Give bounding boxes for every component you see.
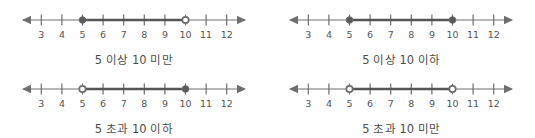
axis-tick-label: 9 bbox=[429, 98, 435, 109]
panel-caption: 5 이상 10 이하 bbox=[362, 53, 440, 68]
axis-tick-label: 11 bbox=[467, 29, 479, 40]
axis-tick-label: 10 bbox=[179, 98, 191, 109]
axis-tick-label: 4 bbox=[59, 98, 65, 109]
axis-tick-label: 4 bbox=[59, 29, 65, 40]
axis-tick-label: 7 bbox=[120, 29, 126, 40]
axis-tick-label: 12 bbox=[488, 98, 500, 109]
right-arrow-icon bbox=[504, 16, 513, 24]
endpoint-marker-open-start bbox=[79, 85, 85, 91]
endpoint-marker-filled-end bbox=[182, 85, 189, 92]
number-line-panel-4: 34567891011125 초과 10 미만 bbox=[268, 69, 535, 138]
axis-tick-label: 6 bbox=[367, 29, 373, 40]
axis-tick-label: 12 bbox=[220, 98, 232, 109]
number-line-diagram-grid: 34567891011125 이상 10 미만34567891011125 이상… bbox=[0, 0, 535, 137]
axis-tick-label: 10 bbox=[447, 29, 459, 40]
panel-caption: 5 초과 10 이하 bbox=[95, 122, 173, 137]
number-line-axis: 3456789101112 bbox=[9, 6, 259, 52]
number-line-axis: 3456789101112 bbox=[276, 6, 526, 52]
right-arrow-icon bbox=[237, 84, 246, 92]
axis-tick-label: 3 bbox=[306, 29, 312, 40]
left-arrow-icon bbox=[22, 84, 31, 92]
endpoint-marker-filled-start bbox=[79, 17, 86, 24]
axis-tick-label: 12 bbox=[488, 29, 500, 40]
axis-tick-label: 8 bbox=[141, 29, 147, 40]
number-line-panel-3: 34567891011125 초과 10 이하 bbox=[0, 69, 268, 138]
axis-tick-label: 8 bbox=[409, 98, 415, 109]
axis-tick-label: 3 bbox=[306, 98, 312, 109]
axis-tick-label: 5 bbox=[347, 29, 353, 40]
axis-tick-label: 6 bbox=[100, 29, 106, 40]
panel-caption: 5 초과 10 미만 bbox=[362, 122, 440, 137]
axis-tick-label: 12 bbox=[220, 29, 232, 40]
axis-tick-label: 10 bbox=[179, 29, 191, 40]
endpoint-marker-open-end bbox=[182, 17, 188, 23]
number-line-axis: 3456789101112 bbox=[276, 75, 526, 121]
axis-tick-label: 5 bbox=[79, 98, 85, 109]
axis-tick-label: 7 bbox=[120, 98, 126, 109]
axis-tick-label: 4 bbox=[326, 29, 332, 40]
axis-tick-label: 5 bbox=[347, 98, 353, 109]
axis-tick-label: 9 bbox=[429, 29, 435, 40]
axis-tick-label: 5 bbox=[79, 29, 85, 40]
endpoint-marker-open-start bbox=[347, 85, 353, 91]
left-arrow-icon bbox=[289, 84, 298, 92]
axis-tick-label: 11 bbox=[200, 29, 212, 40]
panel-caption: 5 이상 10 미만 bbox=[95, 53, 173, 68]
axis-tick-label: 6 bbox=[100, 98, 106, 109]
number-line-panel-1: 34567891011125 이상 10 미만 bbox=[0, 0, 268, 69]
axis-tick-label: 8 bbox=[141, 98, 147, 109]
left-arrow-icon bbox=[22, 16, 31, 24]
axis-tick-label: 9 bbox=[162, 29, 168, 40]
number-line-panel-2: 34567891011125 이상 10 이하 bbox=[268, 0, 535, 69]
number-line-axis: 3456789101112 bbox=[9, 75, 259, 121]
axis-tick-label: 7 bbox=[388, 98, 394, 109]
axis-tick-label: 8 bbox=[409, 29, 415, 40]
axis-tick-label: 7 bbox=[388, 29, 394, 40]
left-arrow-icon bbox=[289, 16, 298, 24]
endpoint-marker-filled-start bbox=[346, 17, 353, 24]
axis-tick-label: 10 bbox=[447, 98, 459, 109]
axis-tick-label: 3 bbox=[38, 29, 44, 40]
axis-tick-label: 6 bbox=[367, 98, 373, 109]
right-arrow-icon bbox=[504, 84, 513, 92]
axis-tick-label: 9 bbox=[162, 98, 168, 109]
endpoint-marker-open-end bbox=[450, 85, 456, 91]
endpoint-marker-filled-end bbox=[449, 17, 456, 24]
axis-tick-label: 11 bbox=[200, 98, 212, 109]
axis-tick-label: 4 bbox=[326, 98, 332, 109]
right-arrow-icon bbox=[237, 16, 246, 24]
axis-tick-label: 3 bbox=[38, 98, 44, 109]
axis-tick-label: 11 bbox=[467, 98, 479, 109]
